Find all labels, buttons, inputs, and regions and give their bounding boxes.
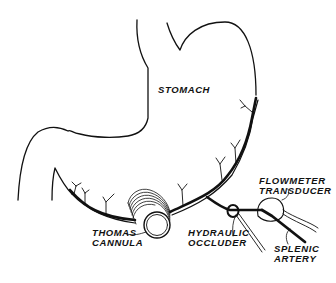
label-line: ARTERY [274,254,319,264]
stomach-diagram [0,0,336,283]
label-line: TRANSDUCER [259,186,332,196]
label-flowmeter-transducer: FLOWMETER TRANSDUCER [259,176,332,196]
label-stomach: STOMACH [158,85,210,95]
splenic-branch [207,197,262,210]
label-thomas-cannula: THOMAS CANNULA [92,228,143,248]
esophagus-left-wall [18,20,148,200]
gastroepiploic-artery [70,190,135,220]
greater-curve-artery [170,98,256,212]
cannula-opening [144,212,170,238]
greater-curve-wall [172,100,258,215]
label-line: CANNULA [92,238,143,248]
label-splenic-artery: SPLENIC ARTERY [274,244,319,264]
label-hydraulic-occluder: HYDRAULIC OCCLUDER [188,228,249,248]
lesser-curve-lower [52,168,72,200]
label-line: OCCLUDER [188,238,249,248]
